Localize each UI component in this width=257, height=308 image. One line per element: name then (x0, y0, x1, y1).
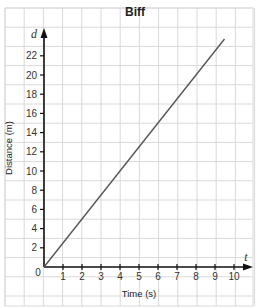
y-axis-title: Distance (m) (3, 121, 14, 175)
y-tick-label: 18 (26, 89, 38, 100)
x-tick-label: 9 (212, 271, 218, 282)
axes (41, 28, 254, 271)
x-tick-label: 5 (136, 271, 142, 282)
y-axis-arrow-icon (41, 28, 48, 38)
y-tick-label: 4 (31, 223, 37, 234)
y-tick-label: 20 (26, 70, 38, 81)
x-tick-label: 3 (98, 271, 104, 282)
x-tick-label: 7 (174, 271, 180, 282)
origin-label: 0 (35, 267, 41, 278)
x-tick-label: 8 (193, 271, 199, 282)
x-axis-arrow-icon (243, 264, 253, 271)
y-tick-label: 6 (31, 204, 37, 215)
y-tick-label: 22 (26, 50, 38, 61)
y-axis-variable: d (31, 27, 38, 41)
x-tick-label: 6 (155, 271, 161, 282)
distance-time-chart: Biff 12345678910246810121416182022 d t 0… (0, 0, 257, 308)
y-tick-label: 16 (26, 108, 38, 119)
y-tick-label: 2 (31, 242, 37, 253)
x-axis-title: Time (s) (122, 288, 156, 299)
x-tick-label: 2 (79, 271, 85, 282)
x-axis-variable: t (244, 250, 248, 264)
y-tick-label: 8 (31, 185, 37, 196)
y-tick-label: 10 (26, 166, 38, 177)
x-tick-label: 4 (117, 271, 123, 282)
y-tick-label: 12 (26, 146, 38, 157)
x-tick-label: 1 (60, 271, 66, 282)
grid (5, 8, 255, 306)
y-tick-label: 14 (26, 127, 38, 138)
x-tick-label: 10 (228, 271, 240, 282)
chart-title: Biff (125, 5, 146, 19)
